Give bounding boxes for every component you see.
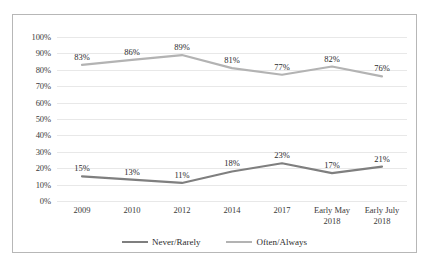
y-axis-tick-label: 60% bbox=[36, 98, 51, 108]
x-axis-tick-label: 2014 bbox=[224, 205, 241, 216]
legend-item[interactable]: Often/Always bbox=[226, 237, 307, 247]
data-label: 81% bbox=[224, 55, 239, 65]
x-axis-tick-line: 2018 bbox=[314, 216, 350, 227]
data-label: 18% bbox=[224, 158, 239, 168]
chart-legend: Never/RarelyOften/Always bbox=[13, 237, 416, 247]
x-axis-tick-label: Early May2018 bbox=[314, 205, 350, 226]
legend-line-icon bbox=[122, 241, 148, 243]
y-axis: 0%10%20%30%40%50%60%70%80%90%100% bbox=[13, 37, 53, 201]
x-axis-tick-line: 2012 bbox=[174, 205, 191, 216]
y-axis-tick-label: 0% bbox=[40, 196, 51, 206]
x-axis-tick-label: Early July2018 bbox=[365, 205, 400, 226]
data-label: 23% bbox=[274, 150, 289, 160]
data-label: 86% bbox=[124, 47, 139, 57]
x-axis-tick-line: 2017 bbox=[274, 205, 291, 216]
y-axis-tick-label: 100% bbox=[32, 32, 51, 42]
x-axis-tick-line: 2014 bbox=[224, 205, 241, 216]
x-axis-tick-line: Early May bbox=[314, 205, 350, 216]
plot-area: 15%13%11%18%23%17%21%83%86%89%81%77%82%7… bbox=[57, 37, 407, 201]
x-axis-tick-label: 2009 bbox=[74, 205, 91, 216]
x-axis: 20092010201220142017Early May2018Early J… bbox=[57, 205, 407, 235]
x-axis-tick-label: 2017 bbox=[274, 205, 291, 216]
y-axis-tick-label: 90% bbox=[36, 48, 51, 58]
y-axis-tick-label: 70% bbox=[36, 81, 51, 91]
y-axis-tick-label: 50% bbox=[36, 114, 51, 124]
legend-item[interactable]: Never/Rarely bbox=[122, 237, 200, 247]
data-label: 15% bbox=[74, 163, 89, 173]
data-label: 77% bbox=[274, 62, 289, 72]
data-label: 83% bbox=[74, 52, 89, 62]
x-axis-tick-label: 2010 bbox=[124, 205, 141, 216]
legend-label: Never/Rarely bbox=[152, 237, 200, 247]
y-axis-tick-label: 30% bbox=[36, 147, 51, 157]
data-label: 82% bbox=[324, 54, 339, 64]
x-axis-tick-label: 2012 bbox=[174, 205, 191, 216]
y-axis-tick-label: 10% bbox=[36, 180, 51, 190]
data-label: 11% bbox=[175, 170, 190, 180]
data-label: 89% bbox=[174, 42, 189, 52]
data-label: 13% bbox=[124, 167, 139, 177]
x-axis-tick-line: 2010 bbox=[124, 205, 141, 216]
legend-line-icon bbox=[226, 241, 252, 243]
x-axis-tick-line: Early July bbox=[365, 205, 400, 216]
y-axis-tick-label: 20% bbox=[36, 163, 51, 173]
legend-label: Often/Always bbox=[256, 237, 307, 247]
x-axis-tick-line: 2009 bbox=[74, 205, 91, 216]
chart-container: 0%10%20%30%40%50%60%70%80%90%100% 15%13%… bbox=[12, 14, 417, 253]
gridline bbox=[57, 201, 407, 202]
y-axis-tick-label: 80% bbox=[36, 65, 51, 75]
data-label: 21% bbox=[374, 154, 389, 164]
data-label: 76% bbox=[374, 63, 389, 73]
data-label: 17% bbox=[324, 160, 339, 170]
y-axis-tick-label: 40% bbox=[36, 130, 51, 140]
x-axis-tick-line: 2018 bbox=[365, 216, 400, 227]
